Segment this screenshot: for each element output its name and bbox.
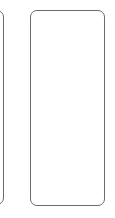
card-carousel xyxy=(0,0,115,218)
current-card[interactable] xyxy=(30,10,105,206)
previous-card[interactable] xyxy=(0,10,4,205)
